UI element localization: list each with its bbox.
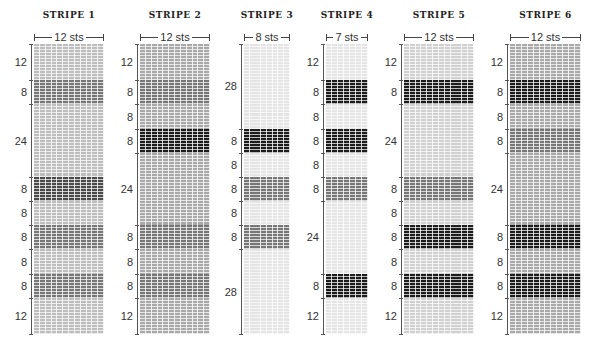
row-count-label: 12 xyxy=(113,310,133,322)
row-count-label: 8 xyxy=(483,86,503,98)
stitch-width-label: 8 sts xyxy=(244,31,290,43)
row-count-label: 8 xyxy=(483,111,503,123)
row-count-label: 8 xyxy=(217,231,237,243)
color-band-black xyxy=(404,80,474,104)
color-band-base xyxy=(34,249,104,273)
stripe-title: STRIPE 6 xyxy=(519,10,572,20)
row-tick xyxy=(399,201,403,202)
row-count-label: 8 xyxy=(377,207,397,219)
row-count-label: 24 xyxy=(299,231,319,243)
row-tick xyxy=(29,225,33,226)
color-band-medium xyxy=(510,129,581,153)
color-band-base xyxy=(510,298,581,334)
row-count-label: 8 xyxy=(7,256,27,268)
row-tick xyxy=(321,298,325,299)
color-band-base xyxy=(244,249,290,334)
row-tick xyxy=(29,104,33,105)
color-band-base xyxy=(404,201,474,225)
color-band-black xyxy=(404,274,474,298)
color-band-black xyxy=(510,80,581,104)
color-band-medium xyxy=(140,80,210,104)
row-axis-line xyxy=(401,44,402,334)
row-tick xyxy=(135,225,139,226)
row-count-label: 8 xyxy=(217,183,237,195)
row-count-label: 8 xyxy=(113,231,133,243)
color-band-medium xyxy=(244,177,290,201)
row-tick xyxy=(135,80,139,81)
color-band-black xyxy=(510,225,581,249)
stripe-title: STRIPE 3 xyxy=(241,10,294,20)
row-tick xyxy=(505,225,509,226)
row-count-label: 8 xyxy=(299,280,319,292)
dimension-line xyxy=(456,37,474,38)
row-tick xyxy=(505,129,509,130)
dimension-line xyxy=(86,37,104,38)
row-count-label: 8 xyxy=(377,183,397,195)
row-tick xyxy=(399,274,403,275)
row-count-label: 8 xyxy=(217,159,237,171)
row-tick xyxy=(399,249,403,250)
dimension-line xyxy=(510,37,529,38)
row-tick xyxy=(505,80,509,81)
row-tick xyxy=(505,249,509,250)
dimension-line xyxy=(404,37,422,38)
row-count-label: 8 xyxy=(483,135,503,147)
row-count-label: 8 xyxy=(113,111,133,123)
dimension-line xyxy=(562,37,581,38)
color-band-base xyxy=(510,104,581,128)
color-band-base xyxy=(326,44,368,80)
row-count-label: 12 xyxy=(7,310,27,322)
color-band-base xyxy=(404,104,474,177)
color-band-medium xyxy=(140,225,210,249)
color-band-base xyxy=(244,201,290,225)
stitch-count-text: 12 sts xyxy=(52,31,85,43)
color-band-base xyxy=(140,104,210,128)
row-tick xyxy=(321,334,325,335)
color-band-base xyxy=(34,298,104,334)
row-tick xyxy=(29,334,33,335)
row-tick xyxy=(321,177,325,178)
row-tick xyxy=(135,334,139,335)
color-band-medium xyxy=(34,274,104,298)
stitch-grid xyxy=(140,44,210,334)
row-count-label: 8 xyxy=(113,280,133,292)
row-tick xyxy=(239,249,243,250)
row-count-label: 12 xyxy=(483,56,503,68)
stripe-title: STRIPE 1 xyxy=(43,10,96,20)
dimension-line xyxy=(326,37,333,38)
color-band-base xyxy=(404,298,474,334)
row-count-label: 12 xyxy=(299,310,319,322)
stitch-count-text: 12 sts xyxy=(158,31,191,43)
row-tick xyxy=(29,201,33,202)
row-count-label: 8 xyxy=(377,231,397,243)
row-tick xyxy=(399,334,403,335)
color-band-black xyxy=(326,274,368,298)
stitch-width-label: 7 sts xyxy=(326,31,368,43)
row-tick xyxy=(505,153,509,154)
color-band-medium xyxy=(404,177,474,201)
color-band-base xyxy=(326,298,368,334)
color-band-base xyxy=(326,104,368,128)
row-tick xyxy=(135,298,139,299)
row-tick xyxy=(135,249,139,250)
row-tick xyxy=(505,298,509,299)
row-count-label: 8 xyxy=(7,231,27,243)
row-count-label: 12 xyxy=(299,56,319,68)
row-count-label: 8 xyxy=(7,183,27,195)
row-tick xyxy=(321,44,325,45)
row-tick xyxy=(321,80,325,81)
row-tick xyxy=(29,44,33,45)
row-count-label: 8 xyxy=(217,135,237,147)
color-band-base xyxy=(326,153,368,177)
row-tick xyxy=(399,225,403,226)
row-tick xyxy=(29,274,33,275)
stitch-width-label: 12 sts xyxy=(404,31,474,43)
stitch-count-text: 12 sts xyxy=(422,31,455,43)
row-count-label: 8 xyxy=(299,86,319,98)
color-band-base xyxy=(34,201,104,225)
color-band-black xyxy=(326,129,368,153)
row-count-label: 8 xyxy=(483,231,503,243)
row-tick xyxy=(135,44,139,45)
row-tick xyxy=(239,334,243,335)
color-band-black xyxy=(510,274,581,298)
